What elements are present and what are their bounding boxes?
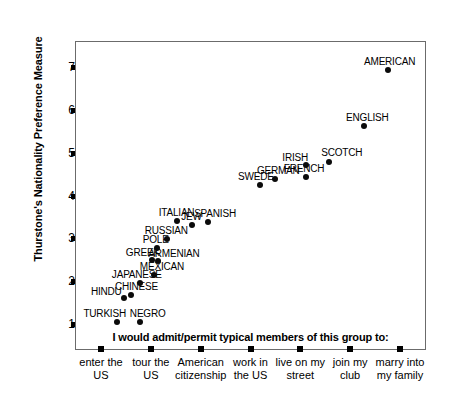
data-point bbox=[154, 245, 160, 251]
x-tick-mark bbox=[198, 346, 204, 352]
data-point-label: RUSSIAN bbox=[145, 226, 188, 236]
data-point bbox=[151, 272, 157, 278]
data-point-label: ENGLISH bbox=[346, 113, 389, 123]
plot-area bbox=[75, 41, 426, 350]
data-point-label: SCOTCH bbox=[321, 148, 362, 158]
data-point-label: TURKISH bbox=[83, 309, 126, 319]
y-tick-3: 3 bbox=[0, 233, 75, 243]
x-tick-mark bbox=[347, 346, 353, 352]
y-tick-2: 2 bbox=[0, 276, 75, 286]
x-tick-mark bbox=[98, 346, 104, 352]
data-point bbox=[121, 295, 127, 301]
x-tick-mark bbox=[297, 346, 303, 352]
y-tick-1: 1 bbox=[0, 319, 75, 329]
x-tick-label: marry intomy family bbox=[358, 356, 442, 382]
x-tick-label-line: marry into bbox=[358, 356, 442, 369]
y-tick-4: 4 bbox=[0, 191, 75, 201]
scatter-chart: Thurstone's Nationality Preference Measu… bbox=[0, 0, 451, 406]
data-point bbox=[257, 182, 263, 188]
data-point-label: IRISH bbox=[282, 153, 308, 163]
plot-caption: I would admit/permit typical members of … bbox=[75, 331, 426, 343]
x-tick-mark bbox=[397, 346, 403, 352]
x-tick-label-line: my family bbox=[358, 369, 442, 382]
data-point bbox=[189, 222, 195, 228]
data-point-label: SPANISH bbox=[194, 209, 236, 219]
data-point-label: MEXICAN bbox=[140, 262, 184, 272]
data-point-label: AMERICAN bbox=[364, 57, 415, 67]
y-tick-5: 5 bbox=[0, 148, 75, 158]
x-tick-mark bbox=[148, 346, 154, 352]
y-tick-6: 6 bbox=[0, 105, 75, 115]
x-tick-mark bbox=[248, 346, 254, 352]
data-point bbox=[128, 292, 134, 298]
data-point-label: NEGRO bbox=[130, 309, 166, 319]
y-tick-7: 7 bbox=[0, 62, 75, 72]
data-point bbox=[137, 319, 143, 325]
data-point bbox=[174, 218, 180, 224]
